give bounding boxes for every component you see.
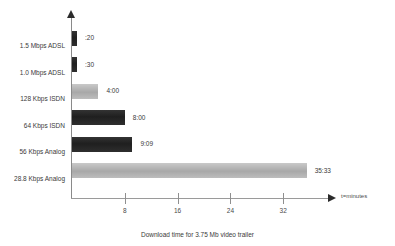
x-axis-title: t=minutes xyxy=(341,193,367,199)
category-label-text: 128 Kbps ISDN xyxy=(20,95,65,102)
bar-value-label: 35:33 xyxy=(315,167,331,174)
category-label-text: 64 Kbps ISDN xyxy=(24,122,65,129)
category-label: 64 Kbps ISDN xyxy=(0,114,65,132)
bar xyxy=(72,163,307,178)
x-tick-label: 32 xyxy=(280,207,287,214)
category-label-text: 1.0 Mbps ADSL xyxy=(20,69,65,76)
bar-value-label: :20 xyxy=(85,34,94,41)
x-tick-label: 24 xyxy=(227,207,234,214)
category-label-text: 56 Kbps Analog xyxy=(19,148,65,155)
category-label: 1.0 Mbps ADSL xyxy=(0,61,65,79)
x-tick-label: 8 xyxy=(123,207,127,214)
bar xyxy=(72,84,98,99)
category-label: 56 Kbps Analog xyxy=(0,140,65,158)
category-label-text: 1.5 Mbps ADSL xyxy=(20,42,65,49)
bar-value-label: 8:00 xyxy=(133,114,146,121)
x-tick-mark xyxy=(283,193,284,204)
bar xyxy=(72,110,125,125)
category-label: 28.8 Kbps Analog xyxy=(0,167,65,185)
x-axis-arrow-icon xyxy=(328,194,336,202)
x-tick-mark xyxy=(178,193,179,204)
bar-value-label: 4:00 xyxy=(106,87,119,94)
bar-value-label: 9:09 xyxy=(140,140,153,147)
plot-area: t=minutes 8162432 1.5 Mbps ADSL:201.0 Mb… xyxy=(0,0,395,246)
download-time-bar-chart: t=minutes 8162432 1.5 Mbps ADSL:201.0 Mb… xyxy=(0,0,395,246)
x-tick-mark xyxy=(125,193,126,204)
bar xyxy=(72,31,77,46)
bar-value-label: :30 xyxy=(85,61,94,68)
x-tick-label: 16 xyxy=(174,207,181,214)
x-tick-mark xyxy=(230,193,231,204)
category-label: 128 Kbps ISDN xyxy=(0,87,65,105)
chart-caption: Download time for 3.75 Mb video trailer xyxy=(0,231,395,238)
category-label: 1.5 Mbps ADSL xyxy=(0,34,65,52)
bar xyxy=(72,137,132,152)
y-axis-arrow-icon xyxy=(67,10,75,18)
bar xyxy=(72,57,77,72)
category-label-text: 28.8 Kbps Analog xyxy=(14,175,65,182)
x-axis-line xyxy=(71,198,330,199)
